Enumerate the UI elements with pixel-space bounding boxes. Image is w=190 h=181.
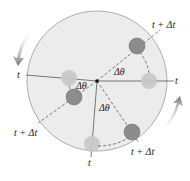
label-t-plus-dt-left: t + Δt bbox=[14, 127, 37, 138]
ball-end-bottom bbox=[124, 124, 140, 140]
center-pivot bbox=[95, 79, 99, 83]
label-t-plus-dt-bottom: t + Δt bbox=[131, 146, 154, 157]
label-t-bottom: t bbox=[88, 157, 91, 168]
label-dtheta-upper: Δθ bbox=[113, 66, 125, 77]
rotating-disk-diagram: t t t t + Δt t + Δt t + Δt Δθ Δθ Δθ bbox=[0, 0, 190, 181]
diagram-canvas: t t t t + Δt t + Δt t + Δt Δθ Δθ Δθ bbox=[0, 0, 190, 181]
label-t-right: t bbox=[175, 75, 178, 86]
label-dtheta-left: Δθ bbox=[75, 80, 87, 91]
ball-start-left bbox=[61, 70, 77, 86]
ball-end-left bbox=[66, 89, 82, 105]
label-t-plus-dt-upper: t + Δt bbox=[152, 19, 175, 30]
ball-end-upper bbox=[129, 38, 145, 54]
ball-start-bottom bbox=[84, 136, 100, 152]
ball-start-right bbox=[141, 73, 157, 89]
label-dtheta-bottom: Δθ bbox=[98, 102, 110, 113]
label-t-left: t bbox=[17, 69, 20, 80]
